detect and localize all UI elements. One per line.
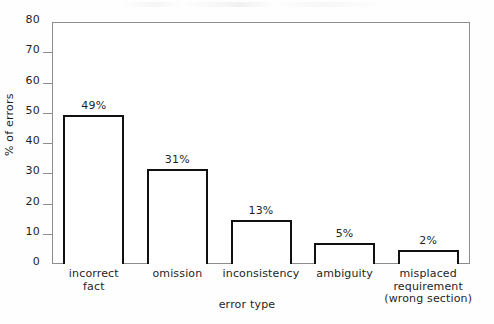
bar-value-label: 2% [388,235,468,246]
y-axis-tick-label: 30 [6,165,40,176]
y-axis-tick-mark [43,173,52,174]
y-axis-tick-label: 70 [6,44,40,55]
bar-value-label: 5% [305,228,385,239]
y-axis-tick-mark [43,234,52,235]
bar [231,220,292,264]
bars-layer: 49%31%13%5%2% [52,22,470,264]
y-axis-tick-label: 20 [6,196,40,207]
bar [398,250,459,264]
y-axis-tick-label: 50 [6,105,40,116]
y-axis-tick-mark [43,113,52,114]
y-axis-tick-mark [43,143,52,144]
x-axis-category-label-line: misplaced [373,268,483,281]
bar-value-label: 31% [137,154,217,165]
y-axis: 80706050403020100 [0,22,52,264]
y-axis-tick-mark [43,204,52,205]
bar [63,115,124,264]
scan-artifact [120,2,380,7]
y-axis-tick-mark [43,52,52,53]
y-axis-tick-label: 60 [6,75,40,86]
y-axis-tick-label: 80 [6,14,40,25]
y-axis-tick-mark [43,83,52,84]
bar-value-label: 49% [54,100,134,111]
bar [314,243,375,264]
y-axis-tick-label: 0 [6,256,40,267]
bar-value-label: 13% [221,205,301,216]
x-axis-category-label-line: fact [39,281,149,294]
bar [147,169,208,264]
x-axis-title: error type [0,298,494,311]
bar-chart-figure: % of errors 80706050403020100 49%31%13%5… [0,0,494,324]
y-axis-tick-label: 10 [6,226,40,237]
y-axis-tick-label: 40 [6,135,40,146]
